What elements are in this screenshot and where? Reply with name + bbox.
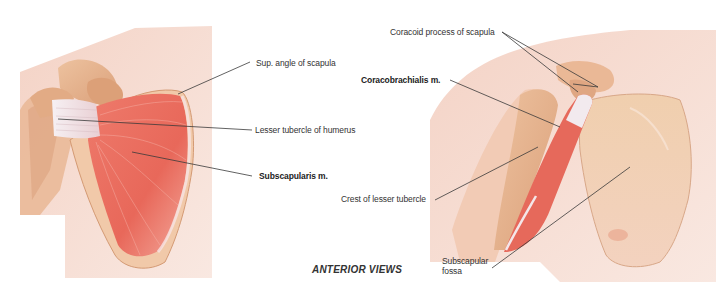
figure-caption: ANTERIOR VIEWS (312, 264, 402, 275)
label-crest-of-lesser-tubercle: Crest of lesser tubercle (341, 194, 426, 204)
left-view-illustration (20, 26, 212, 278)
anatomy-figure: Sup. angle of scapula Lesser tubercle of… (0, 0, 726, 296)
illustration-canvas (0, 0, 726, 296)
label-subscapular-fossa-line2: fossa (442, 266, 462, 276)
label-lesser-tubercle-of-humerus: Lesser tubercle of humerus (255, 125, 355, 135)
right-view-illustration (430, 30, 716, 282)
label-coracobrachialis-muscle: Coracobrachialis m. (361, 75, 440, 85)
label-subscapularis-muscle: Subscapularis m. (259, 171, 328, 181)
label-coracoid-process-of-scapula: Coracoid process of scapula (390, 27, 495, 37)
label-subscapular-fossa-line1: Subscapular (442, 256, 488, 266)
label-sup-angle-of-scapula: Sup. angle of scapula (256, 58, 336, 68)
